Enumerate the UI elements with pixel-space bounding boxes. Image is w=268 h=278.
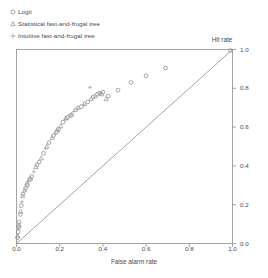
y-axis-label: Hit rate: [200, 36, 244, 43]
data-point-circle: [19, 204, 23, 208]
axis-ticks: [17, 50, 237, 248]
series-plus: [17, 85, 103, 231]
y-tick-label: 0.6: [240, 123, 260, 130]
data-point-circle: [106, 94, 110, 98]
data-point-circle: [61, 120, 65, 124]
roc-chart-figure: Logit Statistical fast-and-frugal tree I…: [0, 0, 268, 278]
y-tick-label: 0.4: [240, 162, 260, 169]
data-point-triangle: [89, 97, 93, 101]
data-point-triangle: [59, 124, 63, 128]
data-point-circle: [144, 74, 148, 78]
data-points: [16, 49, 233, 240]
data-point-plus: [32, 170, 36, 174]
data-point-circle: [42, 151, 46, 155]
data-point-plus: [53, 132, 57, 136]
x-tick-label: 0.2: [50, 245, 70, 252]
data-point-circle: [37, 160, 41, 164]
data-point-plus: [88, 85, 92, 89]
data-point-triangle: [45, 144, 49, 148]
y-tick-label: 0.0: [240, 240, 260, 247]
x-tick-label: 0.8: [179, 245, 199, 252]
data-point-plus: [20, 200, 24, 204]
data-point-circle: [47, 141, 51, 145]
series-triangle: [16, 92, 109, 238]
chance-diagonal-line: [17, 50, 233, 244]
data-point-triangle: [104, 97, 108, 101]
data-point-plus: [81, 103, 85, 107]
x-tick-label: 0.0: [7, 245, 27, 252]
y-tick-label: 0.2: [240, 201, 260, 208]
data-point-circle: [116, 88, 120, 92]
diagonal-reference-line: [17, 50, 233, 244]
data-point-circle: [164, 66, 168, 70]
data-point-circle: [129, 81, 133, 85]
x-tick-label: 0.4: [93, 245, 113, 252]
series-circle: [16, 49, 233, 240]
x-tick-label: 0.6: [136, 245, 156, 252]
data-point-plus: [44, 146, 48, 150]
y-tick-label: 1.0: [240, 46, 260, 53]
x-axis-label: False alarm rate: [0, 258, 268, 265]
data-point-triangle: [55, 128, 59, 132]
data-point-triangle: [39, 156, 43, 160]
y-tick-label: 0.8: [240, 84, 260, 91]
